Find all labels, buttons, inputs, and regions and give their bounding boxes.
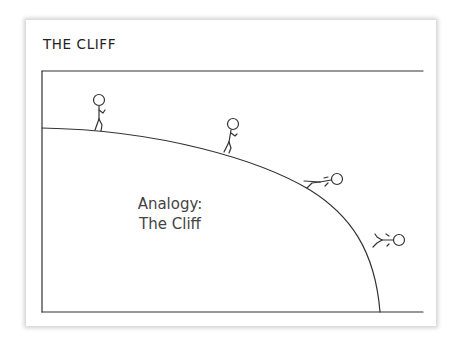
analogy-line-1: Analogy: xyxy=(130,194,210,214)
stick-figure-walking xyxy=(94,95,106,132)
stick-figure-downhill xyxy=(224,119,239,154)
stick-figure-sliding xyxy=(304,174,343,189)
stick-figure-falling xyxy=(373,234,405,247)
analogy-line-2: The Cliff xyxy=(130,214,210,234)
cliff-curve xyxy=(42,128,380,312)
cliff-illustration xyxy=(0,0,461,342)
analogy-label: Analogy: The Cliff xyxy=(130,194,210,234)
